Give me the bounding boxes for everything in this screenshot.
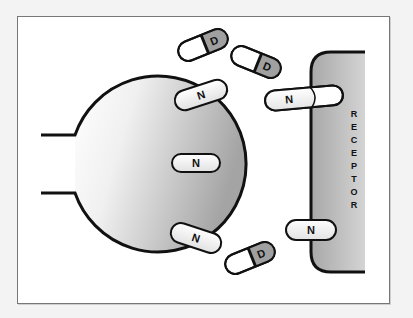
svg-text:R: R [351,200,358,210]
d-pill-top-left: D [175,26,231,64]
n-pill-cell-center: N [172,154,220,172]
svg-text:N: N [192,157,200,169]
svg-text:C: C [351,135,358,145]
svg-text:E: E [351,148,357,158]
svg-text:E: E [351,122,357,132]
svg-text:P: P [351,161,357,171]
svg-text:T: T [351,174,357,184]
d-pill-top-right: D [228,43,284,81]
n-pill-receptor-bottom: N [286,220,336,240]
svg-text:N: N [285,93,294,106]
d-pill-bottom: D [222,239,278,277]
svg-text:N: N [307,224,315,236]
svg-text:O: O [350,187,357,197]
svg-text:R: R [351,109,358,119]
diagram-canvas: R E C E P T O R N N N N N [0,0,413,318]
